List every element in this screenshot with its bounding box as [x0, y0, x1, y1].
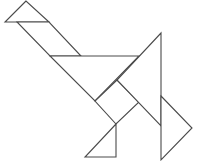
- small-triangle-head: [5, 1, 49, 22]
- medium-triangle-tail: [161, 96, 192, 160]
- small-triangle-foot: [85, 124, 116, 157]
- parallelogram-neck: [17, 22, 81, 56]
- tangram-figure: [0, 0, 197, 167]
